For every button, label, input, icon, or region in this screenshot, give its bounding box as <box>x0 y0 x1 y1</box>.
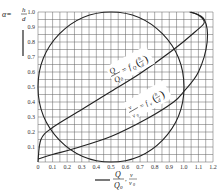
x-axis-q: Q <box>115 170 121 179</box>
grid <box>38 12 213 162</box>
x-axis-comma: , <box>125 175 127 183</box>
y-axis-alpha: α= <box>2 10 12 19</box>
y-tick: 1.0 <box>28 9 36 15</box>
y-tick: 0.7 <box>28 54 36 60</box>
chart: 00.10.20.30.40.50.60.70.80.91.01.11.2 0.… <box>0 0 223 196</box>
x-tick: 1.0 <box>180 164 188 170</box>
y-tick: 0.1 <box>28 144 36 150</box>
x-axis-q0-sub: 0 <box>120 185 123 190</box>
y-tick: 0.6 <box>28 69 36 75</box>
v-curve <box>38 12 207 159</box>
v-annotation: v v 0 = f v ( h d ) <box>123 80 173 120</box>
y-tick: 0.8 <box>28 39 36 45</box>
x-axis-v0: v <box>129 180 132 186</box>
y-axis-d: d <box>22 15 26 23</box>
x-axis-v0-sub: 0 <box>133 182 135 187</box>
x-tick: 1.1 <box>195 164 203 170</box>
y-tick: 0.4 <box>28 99 36 105</box>
x-tick: 0.1 <box>49 164 57 170</box>
x-axis-v: v <box>130 172 133 178</box>
x-tick: 0.3 <box>78 164 86 170</box>
y-tick: 0.9 <box>28 24 36 30</box>
x-tick-labels: 00.10.20.30.40.50.60.70.80.91.01.11.2 <box>37 164 217 170</box>
x-tick: 0.5 <box>107 164 115 170</box>
y-tick: 0.3 <box>28 114 36 120</box>
y-tick: 0.5 <box>28 84 36 90</box>
y-axis-h: h <box>22 6 26 14</box>
y-tick-labels: 0.10.20.30.40.50.60.70.80.91.0 <box>28 9 36 150</box>
x-tick: 0.8 <box>151 164 159 170</box>
x-tick: 0 <box>37 164 40 170</box>
x-tick: 1.2 <box>209 164 217 170</box>
x-tick: 0.6 <box>122 164 130 170</box>
y-tick: 0.2 <box>28 129 36 135</box>
x-tick: 0.2 <box>63 164 71 170</box>
x-tick: 0.4 <box>93 164 101 170</box>
x-tick: 0.7 <box>136 164 144 170</box>
x-tick: 0.9 <box>166 164 174 170</box>
